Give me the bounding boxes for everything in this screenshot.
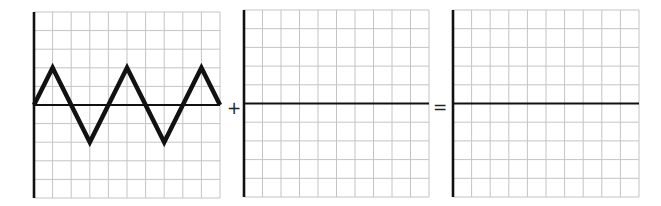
wave-b-panel	[244, 10, 429, 197]
superposition-diagram: + =	[0, 0, 661, 206]
wave-a-panel	[34, 12, 220, 198]
result-panel	[453, 10, 639, 197]
plus-sign: +	[227, 98, 241, 118]
equals-sign: =	[433, 97, 447, 117]
